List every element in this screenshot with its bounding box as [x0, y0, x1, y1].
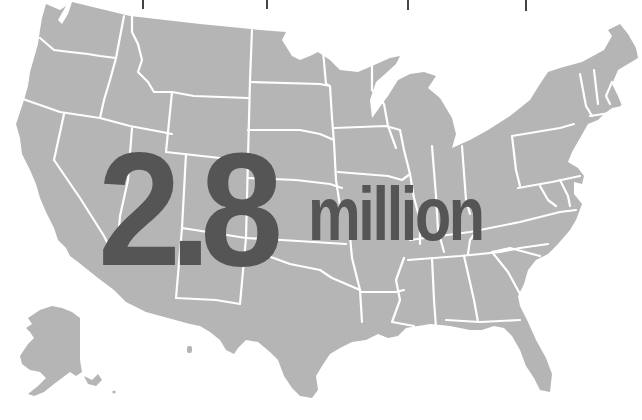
headline-number: 2.8 [98, 128, 272, 290]
headline-unit: million [308, 176, 483, 252]
tick-marks [143, 0, 526, 11]
alaska-landmass [20, 306, 82, 396]
headline: 2.8 million [98, 128, 287, 290]
hawaii-island [187, 346, 192, 353]
aleutian-islands [84, 374, 102, 386]
us-map-graphic: 2.8 million [0, 0, 642, 420]
island-speck [112, 390, 115, 393]
